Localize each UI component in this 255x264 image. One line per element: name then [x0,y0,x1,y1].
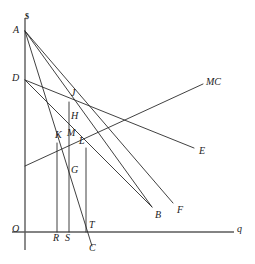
point-label-T: T [89,220,95,230]
diagram-canvas [0,0,255,264]
point-label-R: R [53,233,59,243]
point-label-D: D [12,73,19,83]
point-label-A: A [13,25,19,35]
line-A-B [25,31,152,207]
point-label-B: B [155,210,161,220]
axes-group [12,18,234,250]
point-label-S: S [65,233,70,243]
axis-label-q: q [237,224,242,234]
line-A-F [25,31,173,203]
line-D-B [25,80,152,207]
point-label-C: C [89,243,96,253]
axis-label-dollar: $ [25,13,29,21]
point-label-K: K [55,130,62,140]
line-D-E [25,80,194,148]
curve-label-mc: MC [206,77,221,87]
point-label-F: F [177,205,183,215]
axis-label-origin: O [12,224,19,234]
point-label-G: G [71,165,78,175]
economics-diagram: $ q O A D J H K M L G R S T C B F E MC [0,0,255,264]
point-label-H: H [71,111,78,121]
point-label-E: E [199,146,205,156]
point-label-L: L [79,136,85,146]
point-label-M: M [67,128,75,138]
point-label-J: J [71,88,75,98]
